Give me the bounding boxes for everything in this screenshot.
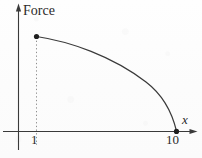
x-tick-label-10: 10 xyxy=(166,133,179,146)
x-tick-label-1: 1 xyxy=(31,133,38,146)
x-axis-arrow-icon xyxy=(190,129,198,134)
x-axis-title: x xyxy=(182,113,188,126)
data-point-start xyxy=(34,34,39,39)
y-axis-title: Force xyxy=(23,4,55,18)
force-curve xyxy=(37,37,177,132)
force-vs-x-figure: Force x 1 10 xyxy=(0,0,202,158)
y-axis-arrow-icon xyxy=(16,4,21,12)
